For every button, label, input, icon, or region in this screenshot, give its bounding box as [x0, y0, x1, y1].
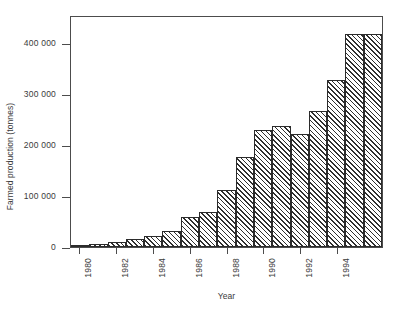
y-tick-label: 200 000 — [24, 140, 56, 150]
bar-cell — [199, 17, 217, 247]
bar-series — [71, 17, 382, 247]
plot-area — [70, 16, 383, 248]
x-tick-mark — [79, 248, 80, 254]
bar-cell — [71, 17, 89, 247]
y-tick-label: 0 — [51, 242, 56, 252]
x-tick-mark — [153, 248, 154, 254]
bar-cell — [236, 17, 254, 247]
x-tick-mark — [300, 248, 301, 254]
bar-cell — [272, 17, 290, 247]
x-tick-mark — [337, 248, 338, 254]
bar-cell — [217, 17, 235, 247]
bar-cell — [144, 17, 162, 247]
bar — [126, 239, 144, 247]
y-tick-mark — [62, 146, 70, 147]
bar-cell — [254, 17, 272, 247]
bar — [327, 80, 345, 247]
bar — [144, 236, 162, 247]
bar — [272, 126, 290, 247]
bar — [236, 157, 254, 247]
bar-cell — [181, 17, 199, 247]
bar — [309, 111, 327, 247]
x-axis-title: Year — [70, 291, 383, 301]
x-tick-mark — [227, 248, 228, 254]
bar-cell — [345, 17, 363, 247]
y-tick-label: 400 000 — [24, 38, 56, 48]
bar — [364, 34, 382, 247]
bar-cell — [126, 17, 144, 247]
bar-cell — [309, 17, 327, 247]
y-tick-label: 100 000 — [24, 191, 56, 201]
bar — [71, 245, 89, 247]
bar — [162, 231, 180, 247]
bar-cell — [327, 17, 345, 247]
bar-cell — [89, 17, 107, 247]
bar — [345, 34, 363, 247]
bar — [181, 217, 199, 247]
bar — [254, 130, 272, 247]
y-tick-mark — [62, 197, 70, 198]
x-tick-mark — [116, 248, 117, 254]
y-tick-mark — [62, 44, 70, 45]
x-tick-mark — [263, 248, 264, 254]
y-tick-label: 300 000 — [24, 89, 56, 99]
bar — [199, 212, 217, 247]
chart-figure: Farmed production (tonnes) 0100 000200 0… — [0, 0, 397, 313]
y-axis-title: Farmed production (tonnes) — [0, 0, 20, 313]
bar-cell — [364, 17, 382, 247]
bar — [89, 244, 107, 247]
bar-cell — [291, 17, 309, 247]
bar-cell — [162, 17, 180, 247]
y-tick-mark — [62, 95, 70, 96]
bar — [291, 134, 309, 247]
bar — [217, 190, 235, 247]
y-tick-mark — [62, 248, 70, 249]
bar — [108, 242, 126, 247]
x-tick-mark — [190, 248, 191, 254]
bar-cell — [108, 17, 126, 247]
